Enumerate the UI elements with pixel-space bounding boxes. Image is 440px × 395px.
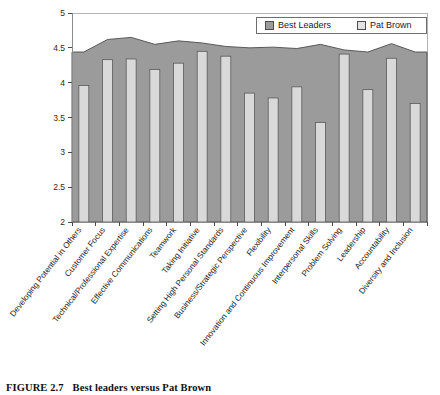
chart-canvas: 22.533.544.55Developing Potential in Oth… <box>0 0 440 395</box>
bar-pat-brown <box>292 87 302 222</box>
bar-pat-brown <box>339 54 349 222</box>
y-axis-tick-label: 4.5 <box>53 43 65 53</box>
bar-pat-brown <box>197 51 207 222</box>
y-axis-tick-label: 4 <box>60 78 65 88</box>
y-axis-tick-label: 3 <box>60 147 65 157</box>
bar-pat-brown <box>245 93 255 222</box>
figure-container: 22.533.544.55Developing Potential in Oth… <box>0 0 440 395</box>
bar-pat-brown <box>103 60 113 222</box>
figure-caption-number: FIGURE 2.7 <box>6 382 64 393</box>
bar-pat-brown <box>150 69 160 222</box>
bar-pat-brown <box>316 122 326 222</box>
bar-pat-brown <box>363 90 373 222</box>
bar-pat-brown <box>126 59 136 222</box>
legend-entry-pat-brown: Pat Brown <box>357 21 412 30</box>
figure-caption-text: Best leaders versus Pat Brown <box>73 382 212 393</box>
bar-pat-brown <box>79 85 89 222</box>
y-axis-tick-label: 2.5 <box>53 182 65 192</box>
legend-label-best-leaders: Best Leaders <box>278 21 331 30</box>
legend-label-pat-brown: Pat Brown <box>370 21 412 30</box>
bar-pat-brown <box>268 98 278 222</box>
legend-swatch-icon-pat-brown <box>357 21 366 30</box>
legend-swatch-icon-best-leaders <box>265 21 274 30</box>
y-axis-tick-label: 5 <box>60 8 65 18</box>
bar-pat-brown <box>174 63 184 222</box>
y-axis-tick-label: 3.5 <box>53 113 65 123</box>
legend-entry-best-leaders: Best Leaders <box>265 21 331 30</box>
bar-pat-brown <box>387 58 397 222</box>
bar-pat-brown <box>410 104 420 222</box>
chart-legend: Best Leaders Pat Brown <box>256 17 427 34</box>
figure-caption: FIGURE 2.7Best leaders versus Pat Brown <box>6 382 211 393</box>
bar-pat-brown <box>221 56 231 222</box>
y-axis-tick-label: 2 <box>60 217 65 227</box>
